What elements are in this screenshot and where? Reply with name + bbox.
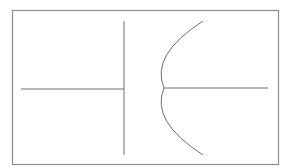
capacitor-diagram: [0, 0, 288, 168]
